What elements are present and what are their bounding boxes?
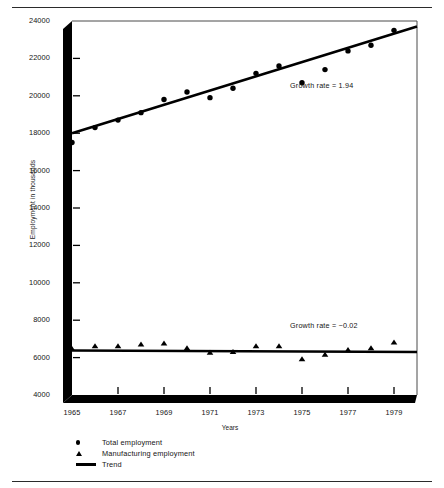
y-tick-label: 8000 bbox=[10, 315, 50, 324]
legend-label: Manufacturing employment bbox=[102, 449, 195, 458]
dot-marker-icon bbox=[74, 440, 102, 444]
x-tick-label: 1971 bbox=[190, 408, 230, 417]
y-tick-label: 22000 bbox=[10, 53, 50, 62]
plot-frame-group bbox=[72, 21, 417, 395]
y-tick-label: 6000 bbox=[10, 353, 50, 362]
chart-canvas: 2400022000200001800016000140001200010000… bbox=[0, 0, 444, 488]
figure-container: 2400022000200001800016000140001200010000… bbox=[0, 0, 444, 488]
legend-label: Trend bbox=[102, 460, 122, 469]
annotation-manufacturing-growth-rate: Growth rate = −0.02 bbox=[290, 321, 358, 330]
x-tick-label: 1979 bbox=[374, 408, 414, 417]
trend-lines bbox=[72, 27, 417, 352]
x-axis-slab bbox=[63, 395, 417, 403]
y-tick-marks bbox=[73, 58, 80, 357]
y-tick-label: 20000 bbox=[10, 91, 50, 100]
y-tick-label: 4000 bbox=[10, 390, 50, 399]
x-tick-marks bbox=[118, 387, 394, 394]
x-tick-label: 1967 bbox=[98, 408, 138, 417]
legend-item-trend: Trend bbox=[74, 459, 195, 470]
line-marker-icon bbox=[74, 463, 102, 466]
y-axis-title: Employment in thousands bbox=[29, 120, 36, 280]
x-tick-label: 1975 bbox=[282, 408, 322, 417]
x-axis-title: Years bbox=[170, 424, 290, 431]
annotation-total-growth-rate: Growth rate = 1.94 bbox=[290, 81, 353, 90]
legend-item-manufacturing-employment: Manufacturing employment bbox=[74, 448, 195, 459]
x-tick-label: 1977 bbox=[328, 408, 368, 417]
x-tick-label: 1973 bbox=[236, 408, 276, 417]
triangle-marker-icon bbox=[74, 451, 102, 456]
chart-legend: Total employment Manufacturing employmen… bbox=[74, 437, 195, 470]
legend-item-total-employment: Total employment bbox=[74, 437, 195, 448]
x-tick-label: 1965 bbox=[52, 408, 92, 417]
legend-label: Total employment bbox=[102, 438, 162, 447]
axis-slab-group bbox=[63, 21, 417, 403]
y-tick-label: 24000 bbox=[10, 16, 50, 25]
x-tick-label: 1969 bbox=[144, 408, 184, 417]
y-axis-slab bbox=[63, 21, 72, 403]
